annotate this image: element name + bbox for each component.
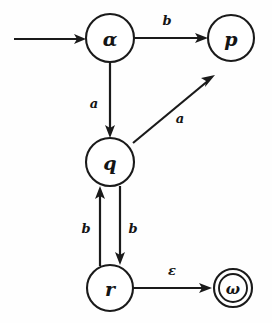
transition-r-q: b (81, 186, 105, 266)
transition-r-omega: ε (133, 263, 212, 294)
transition-alpha-q: a (90, 62, 115, 138)
state-omega[interactable]: ω (214, 269, 252, 307)
transition-r-omega-label: ε (168, 263, 176, 278)
state-q-label: q (103, 152, 116, 174)
state-r[interactable]: r (87, 265, 133, 311)
transition-alpha-q-label: a (90, 96, 98, 111)
transition-q-r-label: b (128, 221, 137, 236)
state-alpha[interactable]: α (86, 14, 134, 62)
transition-q-p-line (133, 80, 209, 143)
state-alpha-label: α (103, 28, 118, 50)
transition-q-p-label: a (176, 111, 184, 126)
transition-q-p: a (133, 75, 215, 143)
transition-alpha-p-label: b (162, 13, 171, 28)
start-arrow (14, 34, 86, 44)
state-p-label: p (224, 28, 238, 50)
transition-r-q-label: b (81, 221, 90, 236)
transition-q-r: b (115, 186, 138, 265)
state-omega-label: ω (226, 280, 240, 298)
state-p[interactable]: p (208, 15, 254, 61)
transition-alpha-p: b (134, 13, 208, 44)
automaton-diagram: Finite automaton state transition diagra… (0, 0, 272, 323)
state-q[interactable]: q (86, 138, 134, 186)
